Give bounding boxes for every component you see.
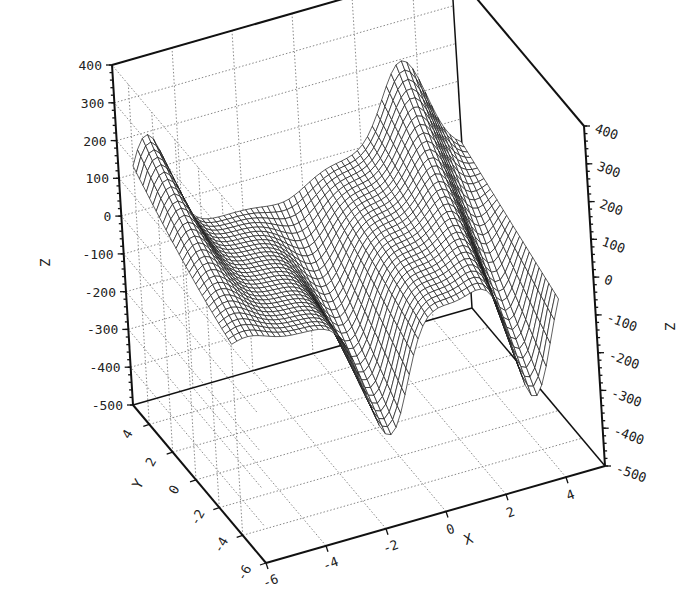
z-tick-label-right: -100 — [605, 310, 640, 335]
x-tick-label: -2 — [381, 537, 401, 556]
x-tick-label: 0 — [444, 521, 456, 538]
z-tick-label-right: 200 — [598, 196, 625, 218]
y-tick-label: -4 — [210, 534, 231, 555]
z-tick-label-left: 0 — [103, 209, 111, 224]
y-tick-label: 2 — [142, 455, 159, 469]
z-tick-label-right: -500 — [614, 461, 649, 486]
z-tick-label-left: -200 — [85, 285, 116, 300]
y-tick-label: -2 — [187, 507, 208, 528]
z-tick-label-left: -100 — [82, 247, 113, 262]
y-tick-label: 4 — [119, 427, 136, 441]
surface-mesh — [133, 61, 559, 435]
z-tick-label-left: -400 — [89, 360, 120, 375]
z-tick-label-left: 100 — [86, 171, 109, 186]
z-tick-label-right: -200 — [607, 347, 642, 372]
z-tick-label-right: -300 — [609, 385, 644, 410]
z-tick-label-left: 300 — [81, 96, 104, 111]
z-tick-label-left: 400 — [79, 58, 102, 73]
y-tick-label: 0 — [166, 482, 183, 496]
z-tick-label-right: 0 — [602, 272, 614, 289]
x-tick-label: -4 — [321, 554, 341, 574]
z-axis-title-right: Z — [662, 322, 678, 330]
z-tick-label-right: 100 — [600, 234, 627, 256]
z-tick-label-left: -300 — [87, 322, 118, 337]
x-tick-label: 2 — [504, 504, 516, 521]
y-axis-title: Y — [129, 476, 147, 492]
z-tick-label-left: -500 — [92, 398, 123, 413]
z-tick-label-right: -400 — [612, 423, 647, 448]
surface-plot: -500-500-400-400-300-300-200-200-100-100… — [0, 0, 700, 612]
z-tick-label-right: 300 — [595, 159, 622, 181]
z-axis-title-left: Z — [37, 258, 53, 266]
z-tick-label-right: 400 — [593, 121, 620, 143]
x-axis-title: X — [462, 530, 476, 548]
z-tick-label-left: 200 — [83, 134, 106, 149]
x-tick-label: -6 — [261, 571, 281, 590]
x-tick-label: 4 — [564, 487, 577, 504]
y-tick-label: -6 — [234, 562, 255, 583]
